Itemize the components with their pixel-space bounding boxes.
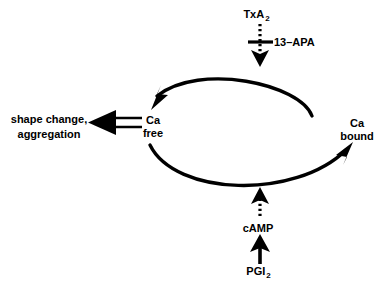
edge-txa2-to-cycle	[251, 24, 269, 67]
label-pgi2: PGI2	[246, 265, 269, 279]
apa-text: 13–APA	[274, 36, 315, 48]
ca-bound-line2: bound	[340, 130, 374, 142]
label-ca-bound: Ca bound	[340, 117, 374, 143]
edge-pgi2-to-camp	[250, 234, 270, 264]
label-shape-change: shape change, aggregation	[10, 112, 88, 142]
label-txa2: TxA2	[243, 8, 268, 22]
label-ca-free: Ca free	[143, 114, 163, 140]
pgi2-subscript: 2	[266, 271, 270, 280]
camp-text: cAMP	[243, 222, 274, 234]
ca-free-line1: Ca	[146, 114, 160, 126]
shape-change-line2: aggregation	[18, 128, 81, 140]
pgi2-base: PGI	[246, 265, 265, 277]
txa2-base: TxA	[243, 8, 264, 20]
ca-free-line2: free	[143, 127, 163, 139]
diagram-vector-layer	[0, 0, 392, 296]
shape-change-line1: shape change,	[11, 113, 87, 125]
ca-bound-line1: Ca	[350, 117, 364, 129]
edge-free-to-bound	[150, 142, 353, 185]
diagram-canvas: shape change, aggregation Ca free Ca bou…	[0, 0, 392, 296]
edge-camp-to-cycle	[251, 187, 269, 216]
edge-bound-to-free	[151, 79, 312, 116]
label-13-apa: 13–APA	[274, 36, 315, 49]
edge-free-to-shape-change	[88, 110, 142, 135]
txa2-subscript: 2	[265, 14, 269, 23]
label-camp: cAMP	[243, 222, 274, 235]
